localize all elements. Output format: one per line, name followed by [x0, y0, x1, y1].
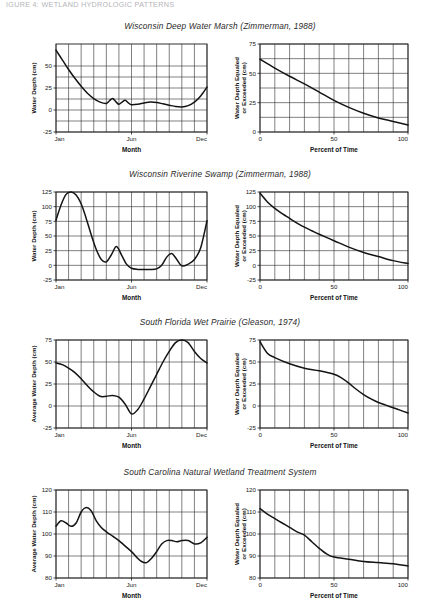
y-tick-label: 125 [246, 188, 257, 195]
y-tick-label: -25 [247, 424, 257, 431]
y-tick-label: -25 [43, 276, 53, 283]
y-tick-label: 0 [253, 402, 257, 409]
y-tick-label: 50 [45, 232, 52, 239]
x-tick-label: Dec [196, 581, 207, 588]
x-tick-label: 0 [259, 581, 263, 588]
svg-text:or Exceeded (cm): or Exceeded (cm) [240, 62, 247, 114]
x-tick-label: Jun [127, 431, 138, 438]
x-axis-title: Month [122, 146, 141, 153]
x-tick-label: Jan [55, 431, 66, 438]
chart-row-1: Wisconsin Deep Water Marsh (Zimmerman, 1… [0, 20, 440, 32]
y-axis-title: Average Water Depth (cm) [30, 346, 37, 423]
x-tick-label: 0 [259, 135, 263, 142]
y-axis-title: Water Depth Equaledor Exceeded (cm) [233, 57, 248, 119]
x-axis-title: Month [122, 294, 141, 301]
y-tick-label: 25 [45, 247, 52, 254]
chart-svg: -250255075100125JanJunDecMonthWater Dept… [0, 180, 222, 308]
y-tick-label: 25 [45, 380, 52, 387]
x-tick-label: 50 [331, 431, 338, 438]
row-title-4: South Carolina Natural Wetland Treatment… [0, 466, 440, 478]
x-tick-label: 50 [331, 135, 338, 142]
y-tick-label: 50 [45, 358, 52, 365]
x-tick-label: Jun [127, 135, 138, 142]
y-tick-label: 75 [249, 336, 256, 343]
y-tick-label: 100 [246, 530, 257, 537]
svg-text:or Exceeded (cm): or Exceeded (cm) [240, 210, 247, 262]
y-tick-label: 100 [42, 530, 53, 537]
page-header-text: IGURE 4: WETLAND HYDROLOGIC PATTERNS [6, 0, 436, 11]
chart-svg: 8090100110120JanJunDecMonthAverage Water… [0, 478, 222, 606]
y-tick-label: 25 [249, 247, 256, 254]
x-tick-label: Dec [196, 431, 207, 438]
x-axis-title: Percent of Time [310, 592, 358, 599]
y-tick-label: 75 [45, 336, 52, 343]
svg-text:Water Depth Equaled: Water Depth Equaled [233, 353, 240, 415]
x-axis-title: Month [122, 592, 141, 599]
panel-hydrograph-1: -2502550JanJunDecMonthWater Depth (cm) [0, 32, 222, 160]
chart-svg: -250255075050100Percent of TimeWater Dep… [218, 328, 440, 456]
chart-svg: -250255075100125050100Percent of TimeWat… [218, 180, 440, 308]
y-tick-label: 25 [249, 380, 256, 387]
panel-duration-3: -250255075050100Percent of TimeWater Dep… [218, 328, 440, 456]
svg-text:Water Depth Equaled: Water Depth Equaled [233, 205, 240, 267]
y-tick-label: 75 [249, 40, 256, 47]
x-tick-label: 50 [331, 581, 338, 588]
row-title-2: Wisconsin Riverine Swamp (Zimmerman, 198… [0, 168, 440, 180]
y-tick-label: 0 [49, 262, 53, 269]
y-tick-label: 90 [249, 552, 256, 559]
y-tick-label: 110 [246, 508, 256, 515]
y-tick-label: 0 [253, 128, 257, 135]
x-axis-title: Percent of Time [310, 294, 358, 301]
x-tick-label: Jan [55, 283, 66, 290]
y-tick-label: 120 [42, 486, 53, 493]
x-tick-label: Dec [196, 283, 207, 290]
panel-hydrograph-2: -250255075100125JanJunDecMonthWater Dept… [0, 180, 222, 308]
y-axis-title: Water Depth (cm) [30, 63, 37, 114]
x-axis-title: Percent of Time [310, 146, 358, 153]
svg-text:Water Depth Equaled: Water Depth Equaled [233, 503, 240, 565]
x-tick-label: Jun [127, 581, 138, 588]
row-title-3: South Florida Wet Prairie (Gleason, 1974… [0, 316, 440, 328]
svg-text:or Exceeded (cm): or Exceeded (cm) [240, 508, 247, 560]
y-tick-label: 110 [42, 508, 52, 515]
svg-text:or Exceeded (cm): or Exceeded (cm) [240, 358, 247, 410]
y-tick-label: 100 [42, 203, 53, 210]
y-tick-label: 50 [249, 232, 256, 239]
chart-row-2: Wisconsin Riverine Swamp (Zimmerman, 198… [0, 168, 440, 180]
panel-hydrograph-4: 8090100110120JanJunDecMonthAverage Water… [0, 478, 222, 606]
x-tick-label: 0 [259, 431, 263, 438]
svg-text:Water Depth Equaled: Water Depth Equaled [233, 57, 240, 119]
y-tick-label: -25 [43, 424, 53, 431]
y-tick-label: 25 [45, 84, 52, 91]
x-tick-label: Jan [55, 135, 66, 142]
chart-svg: -2502550JanJunDecMonthWater Depth (cm) [0, 32, 222, 160]
x-tick-label: 0 [259, 283, 263, 290]
y-tick-label: 75 [249, 218, 256, 225]
y-tick-label: 100 [246, 203, 257, 210]
y-tick-label: -25 [247, 276, 257, 283]
x-axis-title: Month [122, 442, 141, 449]
chart-svg: 8090100110120050100Percent of TimeWater … [218, 478, 440, 606]
chart-row-4: South Carolina Natural Wetland Treatment… [0, 466, 440, 478]
y-tick-label: 80 [249, 574, 256, 581]
y-tick-label: 0 [49, 402, 53, 409]
x-tick-label: 100 [398, 135, 409, 142]
panel-duration-4: 8090100110120050100Percent of TimeWater … [218, 478, 440, 606]
y-tick-label: 50 [249, 358, 256, 365]
x-tick-label: Jan [55, 581, 66, 588]
y-tick-label: 75 [45, 218, 52, 225]
y-axis-title: Water Depth Equaledor Exceeded (cm) [233, 205, 248, 267]
x-tick-label: 100 [398, 431, 409, 438]
y-tick-label: 50 [249, 70, 256, 77]
y-axis-title: Water Depth Equaledor Exceeded (cm) [233, 503, 248, 565]
y-tick-label: 80 [45, 574, 52, 581]
panel-duration-2: -250255075100125050100Percent of TimeWat… [218, 180, 440, 308]
y-tick-label: 125 [42, 188, 53, 195]
x-tick-label: Dec [196, 135, 207, 142]
panel-duration-1: 0255075050100Percent of TimeWater Depth … [218, 32, 440, 160]
y-tick-label: 120 [246, 486, 257, 493]
y-axis-title: Water Depth Equaledor Exceeded (cm) [233, 353, 248, 415]
y-axis-title: Average Water Depth (cm) [30, 496, 37, 573]
panel-hydrograph-3: -250255075JanJunDecMonthAverage Water De… [0, 328, 222, 456]
row-title-1: Wisconsin Deep Water Marsh (Zimmerman, 1… [0, 20, 440, 32]
